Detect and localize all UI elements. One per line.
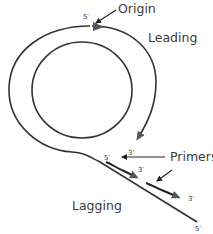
primer1-3-prime-a: 3′ [128,149,134,157]
origin-label: Origin [118,1,156,16]
primer-pointer-arrow-2 [157,170,172,181]
rolling-circle-diagram: Origin Leading Primers Lagging 5′ 5′ 3′ … [0,0,213,234]
tail-5-prime: 5′ [195,225,201,233]
origin-pointer-arrow [96,10,116,23]
primer-2-fragment [146,183,178,197]
origin-direction-arrowhead [93,22,104,31]
primer1-3-prime-b: 3′ [138,166,144,174]
lagging-label: Lagging [72,198,122,213]
primers-label: Primers [170,149,213,164]
leading-label: Leading [148,30,197,45]
primer1-5-prime: 5′ [104,154,110,162]
leading-strand-arc [92,26,156,138]
inner-circle [32,42,132,138]
origin-5-prime: 5′ [83,13,89,21]
primer2-3-prime: 3′ [188,195,194,203]
